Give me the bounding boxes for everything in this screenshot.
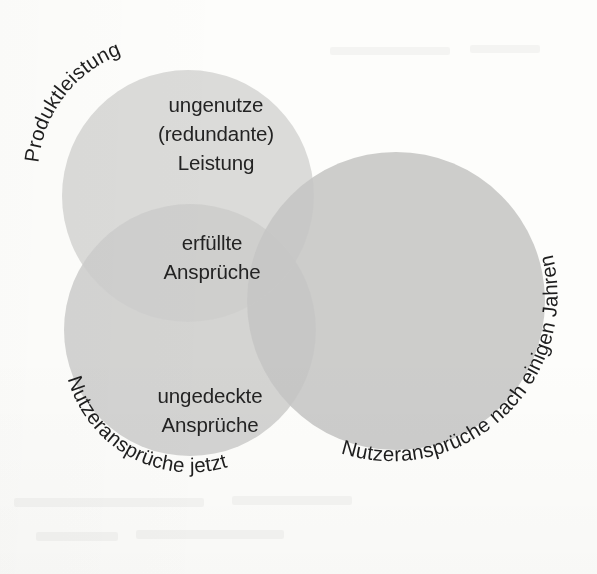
label-erfuellte-line1: erfüllte [182, 231, 243, 254]
label-ungenutzte-line1: ungenutze [169, 93, 264, 116]
label-ungenutzte-line3: Leistung [178, 151, 255, 174]
venn-svg-canvas: ungenutze (redundante) Leistung erfüllte… [0, 0, 597, 574]
label-ungedeckte-line2: Ansprüche [161, 413, 258, 436]
venn-diagram-figure: ungenutze (redundante) Leistung erfüllte… [0, 0, 597, 574]
label-ungenutzte-line2: (redundante) [158, 122, 274, 145]
label-ungedeckte-line1: ungedeckte [157, 384, 262, 407]
label-erfuellte-line2: Ansprüche [163, 260, 260, 283]
